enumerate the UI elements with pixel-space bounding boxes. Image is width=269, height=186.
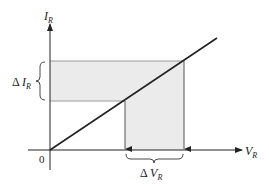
origin-label: 0 (39, 153, 45, 165)
delta-i-brace (36, 62, 45, 100)
delta-i-label: Δ IR (12, 75, 31, 91)
x-axis-label: VR (245, 144, 257, 160)
iv-diagram: IR VR 0 Δ IR Δ VR (0, 0, 269, 186)
y-axis-label: IR (43, 9, 53, 25)
delta-v-brace (126, 154, 183, 163)
delta-v-label: Δ VR (140, 166, 162, 182)
